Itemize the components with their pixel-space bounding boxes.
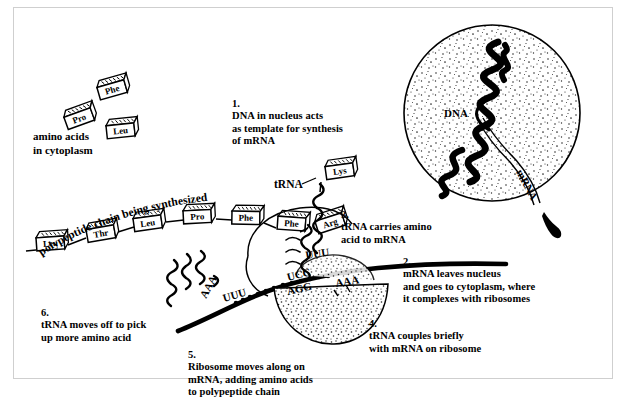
step-1-text: DNA in nucleus acts as template for synt… — [232, 110, 343, 146]
step-5-text: Ribosome moves along on mRNA, adding ami… — [188, 361, 313, 397]
free-amino-acid-leu: Leu — [105, 116, 139, 138]
mrna-free-tip — [542, 212, 561, 238]
step-3-number: 3. — [341, 209, 349, 220]
svg-text:Lys: Lys — [332, 165, 347, 177]
step-3-caption: 3. tRNA carries amino acid to mRNA — [341, 196, 481, 246]
step-3-text: tRNA carries amino acid to mRNA — [341, 221, 432, 245]
residue-phe-2: Phe — [277, 210, 310, 231]
svg-text:Leu: Leu — [140, 217, 156, 229]
residue-phe-1: Phe — [232, 205, 264, 225]
step-2-caption: 2. mRNA leaves nucleus and goes to cytop… — [403, 243, 593, 306]
trna-label: tRNA — [274, 178, 303, 190]
step-4-number: 4. — [369, 318, 377, 329]
free-amino-acid-phe: Phe — [95, 73, 131, 100]
step-1-number: 1. — [232, 98, 240, 109]
trna-label-leader — [302, 178, 316, 184]
step-6-caption: 6. tRNA moves off to pick up more amino … — [41, 294, 201, 344]
svg-text:Leu: Leu — [113, 125, 129, 137]
svg-text:Pro: Pro — [190, 211, 205, 222]
lys-to-trna-bond — [320, 182, 321, 192]
svg-text:Phe: Phe — [284, 218, 299, 229]
step-6-text: tRNA moves off to pick up more amino aci… — [41, 319, 147, 343]
step-2-number: 2. — [403, 256, 411, 267]
step-4-text: tRNA couples briefly with mRNA on riboso… — [369, 330, 481, 354]
incoming-trna-amino-acid-lys: Lys — [324, 156, 358, 179]
svg-text:Phe: Phe — [239, 213, 254, 223]
step-5-number: 5. — [188, 349, 196, 360]
step-4-caption: 4. tRNA couples briefly with mRNA on rib… — [369, 305, 544, 355]
step-2-text: mRNA leaves nucleus and goes to cytoplas… — [403, 268, 535, 304]
step-6-number: 6. — [41, 307, 49, 318]
amino-acids-pool-label: amino acids in cytoplasm — [33, 130, 93, 157]
free-amino-acid-pro: Pro — [62, 101, 99, 130]
dna-label: DNA — [444, 107, 468, 119]
step-1-caption: 1. DNA in nucleus acts as template for s… — [232, 85, 372, 148]
residue-pro: Pro — [183, 203, 216, 224]
step-5-caption: 5. Ribosome moves along on mRNA, adding … — [188, 336, 368, 399]
